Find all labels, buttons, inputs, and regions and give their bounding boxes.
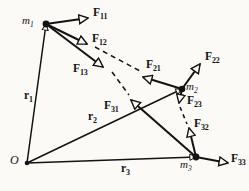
position-vector-label-r2: r2 xyxy=(88,111,97,123)
force-diagram-figure: O m1 m2 m3 r1 r2 r3 F11 F12 F13 F21 F22 … xyxy=(0,0,249,191)
force-label-F31: F31 xyxy=(104,100,119,112)
dashed-connector-f13-f31 xyxy=(112,72,129,95)
force-label-F33: F33 xyxy=(231,153,246,165)
dashed-connector-f23-f32 xyxy=(180,107,187,124)
force-vector-F13 xyxy=(46,24,103,67)
origin-label: O xyxy=(10,154,19,166)
force-label-F32: F32 xyxy=(194,118,209,130)
force-label-F23: F23 xyxy=(187,95,202,107)
position-vector-r3 xyxy=(27,157,196,163)
particle-label-m3: m3 xyxy=(180,159,192,170)
position-vector-label-r1: r1 xyxy=(24,90,33,102)
particle-label-m2: m2 xyxy=(186,81,198,92)
force-label-F13: F13 xyxy=(73,63,88,75)
force-label-F21: F21 xyxy=(146,59,161,71)
force-vector-F12 xyxy=(46,24,87,44)
position-vector-group xyxy=(27,24,196,163)
particle-label-m1: m1 xyxy=(22,15,34,26)
force-vector-F11 xyxy=(46,18,88,24)
force-vector-F31 xyxy=(131,100,196,157)
dashed-connector-f12-f21 xyxy=(95,47,140,71)
particle-node-m3 xyxy=(193,154,200,161)
force-group-m3 xyxy=(131,100,228,163)
position-vector-label-r3: r3 xyxy=(121,163,130,175)
force-vector-F21 xyxy=(143,77,182,89)
origin-node xyxy=(25,161,30,166)
force-label-F22: F22 xyxy=(205,51,220,63)
particle-node-m2 xyxy=(179,86,186,93)
force-label-F12: F12 xyxy=(92,33,107,45)
force-label-F11: F11 xyxy=(93,7,107,19)
particle-node-m1 xyxy=(43,21,50,28)
force-vector-F33 xyxy=(196,157,228,163)
